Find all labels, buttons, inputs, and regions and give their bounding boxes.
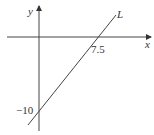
line-l	[28, 15, 116, 125]
x-axis-label: x	[144, 38, 150, 50]
x-intercept-label: 7.5	[91, 43, 105, 55]
y-axis-label: y	[27, 5, 33, 17]
line-label: L	[116, 8, 123, 20]
line-graph-diagram: y x L 7.5 −10	[0, 0, 154, 135]
y-intercept-label: −10	[16, 104, 34, 116]
graph-canvas: y x L 7.5 −10	[0, 0, 154, 135]
